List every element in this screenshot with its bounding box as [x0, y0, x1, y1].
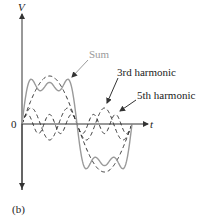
y-axis-label: V: [18, 2, 25, 13]
x-axis-label: t: [150, 119, 153, 130]
fifth-harmonic-label: 5th harmonic: [137, 90, 195, 101]
sum-pointer-arrow: [72, 60, 88, 77]
axes: [22, 14, 148, 190]
panel-label: (b): [12, 204, 25, 215]
third-harmonic-label: 3rd harmonic: [117, 67, 176, 78]
sum-label: Sum: [89, 49, 109, 60]
third-harmonic-pointer-arrow: [107, 78, 118, 103]
fifth-harmonic-pointer-arrow: [120, 100, 136, 111]
origin-label: 0: [11, 119, 17, 130]
fourier-diagram: [0, 0, 198, 221]
